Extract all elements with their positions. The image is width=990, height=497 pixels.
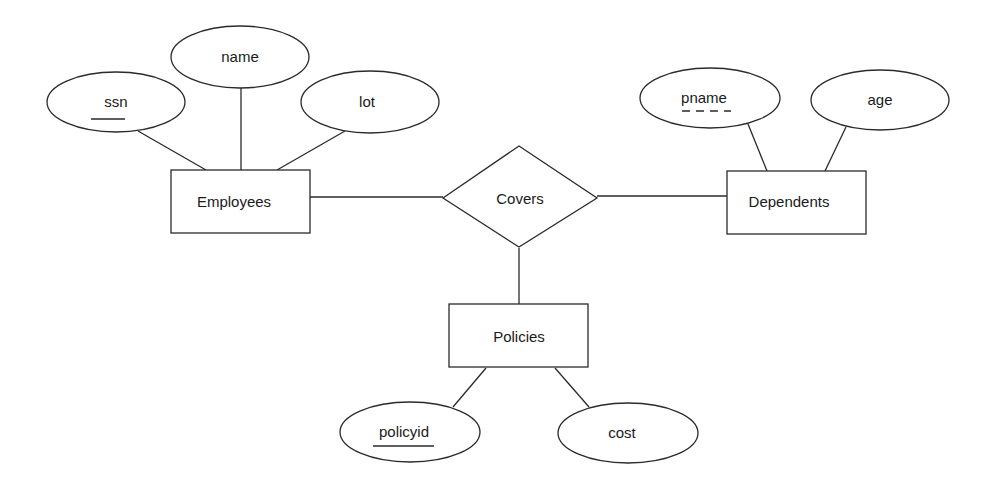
entity-employees[interactable]: Employees	[171, 170, 310, 233]
attribute-age[interactable]: age	[811, 70, 949, 130]
attribute-cost[interactable]: cost	[558, 403, 698, 463]
attribute-lot[interactable]: lot	[301, 71, 439, 133]
attribute-ssn[interactable]: ssn	[47, 72, 185, 132]
attribute-label-name: name	[221, 48, 259, 65]
edge-policyid-policies	[453, 368, 486, 407]
entity-label-policies: Policies	[493, 328, 545, 345]
relationship-label-covers: Covers	[496, 190, 544, 207]
attribute-label-pname: pname	[681, 89, 727, 106]
edge-cost-policies	[555, 368, 589, 407]
entity-label-dependents: Dependents	[749, 193, 830, 210]
entity-label-employees: Employees	[197, 193, 271, 210]
edge-age-dependents	[825, 127, 846, 171]
edge-lot-employees	[277, 131, 345, 170]
attribute-label-cost: cost	[608, 424, 636, 441]
attribute-pname[interactable]: pname	[640, 68, 780, 128]
entity-policies[interactable]: Policies	[449, 304, 588, 367]
attribute-name[interactable]: name	[171, 26, 309, 88]
attribute-label-ssn: ssn	[104, 93, 127, 110]
attribute-label-policyid: policyid	[379, 423, 429, 440]
edge-ssn-employees	[138, 131, 206, 170]
relationship-covers[interactable]: Covers	[443, 146, 597, 247]
attribute-policyid[interactable]: policyid	[340, 402, 480, 462]
attribute-label-age: age	[867, 91, 892, 108]
attribute-label-lot: lot	[359, 93, 376, 110]
edge-pname-dependents	[748, 124, 767, 171]
entity-dependents[interactable]: Dependents	[727, 171, 866, 234]
er-diagram-canvas: ssn name lot Employees Covers pname age …	[0, 0, 990, 497]
